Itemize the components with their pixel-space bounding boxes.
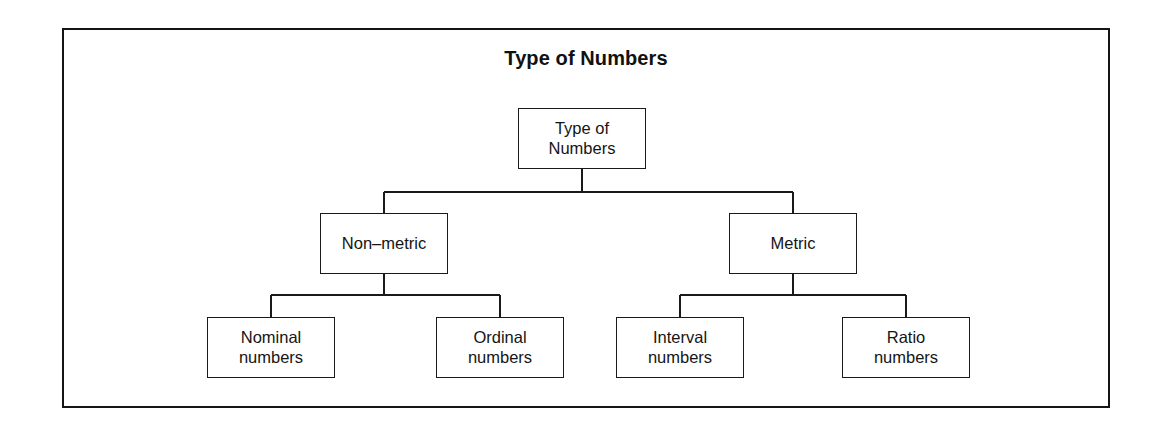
tree-node-ratio[interactable]: Ratio numbers [842, 317, 970, 378]
tree-node-ordinal[interactable]: Ordinal numbers [436, 317, 564, 378]
tree-node-interval-label: Interval numbers [644, 328, 716, 367]
tree-node-root[interactable]: Type of Numbers [518, 108, 646, 169]
figure-title: Type of Numbers [64, 47, 1108, 70]
tree-node-interval[interactable]: Interval numbers [616, 317, 744, 378]
figure-frame: Type of Numbers Type of Numbers Non–m [62, 28, 1110, 408]
tree-node-nominal-label: Nominal numbers [235, 328, 307, 367]
tree-node-non-metric[interactable]: Non–metric [320, 213, 448, 274]
tree-node-ordinal-label: Ordinal numbers [464, 328, 536, 367]
tree-node-root-label: Type of Numbers [545, 119, 620, 158]
tree-node-non-metric-label: Non–metric [338, 234, 430, 253]
tree-node-nominal[interactable]: Nominal numbers [207, 317, 335, 378]
tree-node-metric-label: Metric [767, 234, 820, 253]
tree-node-ratio-label: Ratio numbers [870, 328, 942, 367]
tree-node-metric[interactable]: Metric [729, 213, 857, 274]
